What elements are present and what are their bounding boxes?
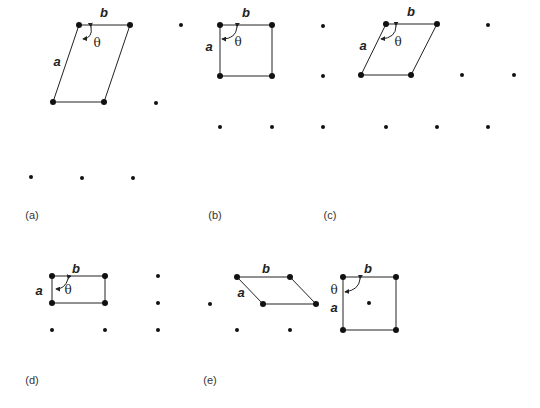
lattice-point	[512, 73, 516, 77]
cell-lattice-point	[393, 327, 399, 333]
lattice-point	[235, 328, 239, 332]
lattice-point	[321, 125, 325, 129]
lattice-point	[486, 125, 490, 129]
vector-b-label: b	[407, 4, 415, 19]
lattice-point	[435, 125, 439, 129]
angle-theta-arc-a	[83, 27, 91, 39]
vector-a-label: a	[359, 38, 366, 53]
angle-theta-label: θ	[330, 283, 337, 297]
lattice-point	[486, 23, 490, 27]
cell-lattice-point	[260, 301, 266, 307]
lattice-point	[156, 328, 160, 332]
unit-cell-a	[53, 25, 130, 102]
unit-cell-b	[220, 25, 272, 76]
cell-lattice-point	[434, 21, 440, 27]
unit-cell-d	[52, 276, 105, 303]
lattice-point	[29, 175, 33, 179]
cell-lattice-point	[217, 22, 223, 28]
vector-a-label: a	[330, 300, 337, 315]
vector-b-label: b	[242, 5, 250, 20]
angle-theta-label: θ	[234, 35, 241, 49]
angle-theta-label: θ	[93, 36, 100, 50]
cell-lattice-point	[269, 22, 275, 28]
panel-label-b: (b)	[208, 209, 221, 221]
lattice-point	[321, 74, 325, 78]
cell-lattice-point	[49, 300, 55, 306]
lattice-point	[288, 328, 292, 332]
cell-lattice-point	[101, 99, 107, 105]
cell-lattice-point	[408, 72, 414, 78]
vector-b-label: b	[72, 261, 80, 276]
vector-b-label: b	[364, 261, 372, 276]
lattice-point	[460, 73, 464, 77]
vector-a-label: a	[35, 283, 42, 298]
panel-label-a: (a)	[25, 209, 38, 221]
cell-lattice-point	[102, 273, 108, 279]
cell-lattice-point	[49, 273, 55, 279]
cell-lattice-point	[50, 99, 56, 105]
vector-a-label: a	[205, 39, 212, 54]
vector-b-label: b	[262, 261, 270, 276]
lattice-point	[103, 328, 107, 332]
lattice-point	[321, 24, 325, 28]
angle-theta-arc-e-2	[345, 279, 360, 292]
unit-cell-e	[237, 277, 316, 304]
cell-lattice-point	[269, 73, 275, 79]
panel-label-d: (d)	[25, 374, 38, 386]
lattice-point	[208, 302, 212, 306]
cell-lattice-point	[340, 327, 346, 333]
angle-theta-label: θ	[394, 35, 401, 49]
lattice-point	[156, 274, 160, 278]
panel-label-c: (c)	[324, 209, 337, 221]
cell-lattice-point	[340, 274, 346, 280]
lattice-diagram: baθ(a)baθ(b)baθ(c)baθ(d)ba(e)baθ	[0, 0, 540, 408]
unit-cell-c	[361, 24, 437, 75]
cell-lattice-point	[234, 274, 240, 280]
lattice-point	[154, 101, 158, 105]
lattice-point	[384, 125, 388, 129]
lattice-point	[50, 328, 54, 332]
cell-lattice-point	[217, 73, 223, 79]
lattice-point	[270, 125, 274, 129]
cell-lattice-point	[313, 301, 319, 307]
angle-theta-label: θ	[64, 283, 71, 297]
cell-lattice-point	[393, 274, 399, 280]
cell-lattice-point	[383, 21, 389, 27]
cell-lattice-point	[127, 22, 133, 28]
lattice-point	[156, 301, 160, 305]
vector-b-label: b	[100, 5, 108, 20]
centered-lattice-point	[367, 301, 371, 305]
cell-lattice-point	[287, 274, 293, 280]
panel-label-e: (e)	[203, 374, 216, 386]
cell-lattice-point	[76, 22, 82, 28]
lattice-point	[218, 125, 222, 129]
lattice-point	[131, 176, 135, 180]
vector-a-label: a	[237, 285, 244, 300]
lattice-point	[80, 176, 84, 180]
cell-lattice-point	[102, 300, 108, 306]
cell-lattice-point	[358, 72, 364, 78]
vector-a-label: a	[53, 54, 60, 69]
lattice-point	[179, 23, 183, 27]
